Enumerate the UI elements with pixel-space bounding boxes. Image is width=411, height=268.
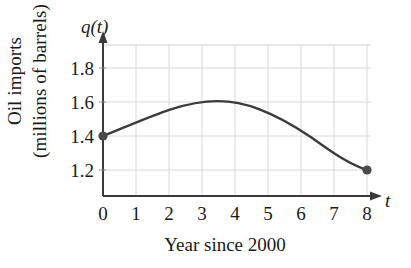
endpoint-marker-end — [362, 165, 371, 174]
y-axis-line — [99, 31, 108, 196]
endpoint-marker-start — [98, 131, 107, 140]
chart-figure: Oil imports (millions of barrels) q(t) t… — [0, 0, 411, 268]
plot-area — [0, 0, 411, 268]
x-axis-line — [103, 192, 382, 201]
